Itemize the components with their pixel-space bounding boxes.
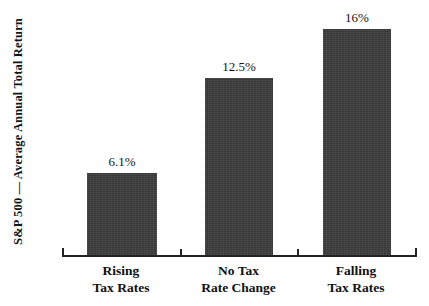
x-axis-category-no-tax-rate-change: No Tax Rate Change [180,262,297,296]
bar-value-label: 6.1% [108,154,135,170]
bar-rect [205,78,273,257]
x-axis-category-rising-tax-rates: Rising Tax Rates [62,262,180,296]
bar-falling-tax-rates: 16% [323,29,391,257]
bar-rect [323,29,391,257]
x-axis-tick-1 [180,249,182,256]
category-line-2: Rate Change [180,279,297,296]
x-axis-left-cap [62,248,64,257]
category-line-1: Falling [336,263,377,278]
bar-value-label: 12.5% [222,59,256,75]
bar-no-tax-rate-change: 12.5% [205,78,273,257]
bar-chart: S&P 500 — Average Annual Total Return 6.… [0,0,429,306]
x-axis-category-falling-tax-rates: Falling Tax Rates [297,262,415,296]
x-axis-tick-2 [297,249,299,256]
x-axis-right-cap [415,248,417,257]
y-axis-title: S&P 500 — Average Annual Total Return [0,0,36,262]
bar-value-label: 16% [345,10,369,26]
category-line-2: Tax Rates [297,279,415,296]
bar-rect [87,173,157,257]
x-axis-line [62,255,417,257]
category-line-2: Tax Rates [62,279,180,296]
category-line-1: Rising [103,263,140,278]
y-axis-title-text: S&P 500 — Average Annual Total Return [11,18,26,245]
plot-area: 6.1% 12.5% 16% [62,0,417,257]
bar-rising-tax-rates: 6.1% [87,173,157,257]
category-line-1: No Tax [218,263,259,278]
